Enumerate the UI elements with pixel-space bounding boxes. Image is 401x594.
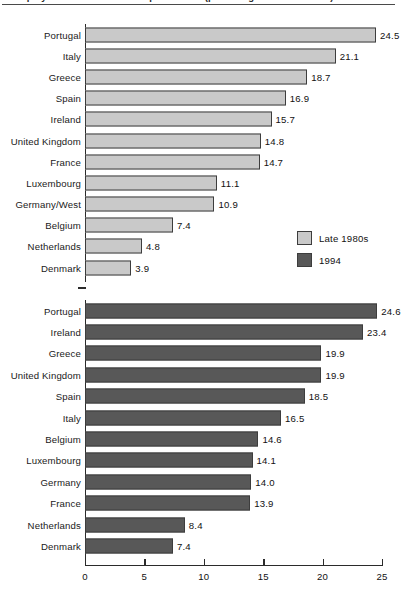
category-label: Spain: [56, 93, 81, 104]
bar: [85, 133, 261, 148]
bar: [85, 175, 217, 190]
bar: [85, 91, 286, 106]
bar-value-label: 24.6: [381, 305, 400, 316]
bar-value-label: 24.5: [380, 29, 399, 40]
category-label: Denmark: [41, 262, 81, 273]
chart-row: France14.7: [0, 151, 399, 172]
bar: [85, 69, 307, 84]
bar-value-label: 10.9: [218, 199, 237, 210]
x-axis-tick-label: 0: [82, 571, 88, 582]
bar: [85, 538, 173, 553]
chart-row: Denmark7.4: [0, 535, 399, 556]
legend-label-1994: 1994: [319, 255, 341, 266]
category-label: Netherlands: [28, 241, 81, 252]
bar-value-label: 14.0: [255, 476, 274, 487]
bar: [85, 517, 185, 532]
legend-label-late-1980s: Late 1980s: [319, 233, 368, 244]
chart-row: Italy21.1: [0, 45, 399, 66]
bar: [85, 27, 376, 42]
legend-swatch-dark-icon: [297, 253, 312, 267]
bar: [85, 154, 260, 169]
legend-item-1994: 1994: [297, 251, 395, 269]
bar-value-label: 23.4: [367, 327, 386, 338]
x-axis-tick-label: 10: [198, 571, 209, 582]
category-label: Belgium: [45, 220, 81, 231]
chart-row: Greece19.9: [0, 343, 399, 364]
chart-row: United Kingdom19.9: [0, 364, 399, 385]
category-label: Ireland: [51, 327, 81, 338]
x-axis-tick-label: 20: [317, 571, 328, 582]
bar-value-label: 11.1: [221, 177, 240, 188]
legend-swatch-light-icon: [297, 231, 312, 245]
bar: [85, 218, 173, 233]
category-label: Germany: [40, 476, 81, 487]
bar: [85, 432, 258, 447]
category-label: Spain: [56, 391, 81, 402]
x-axis-tick: [204, 559, 205, 566]
chart-row: Ireland23.4: [0, 321, 399, 342]
bar-value-label: 14.7: [264, 156, 283, 167]
chart-row: Spain18.5: [0, 386, 399, 407]
x-axis-tick: [382, 559, 383, 566]
category-label: United Kingdom: [11, 135, 81, 146]
chart-row: United Kingdom14.8: [0, 130, 399, 151]
category-label: Belgium: [45, 434, 81, 445]
bar-value-label: 16.9: [290, 93, 309, 104]
bar: [85, 260, 131, 275]
category-label: Greece: [49, 71, 81, 82]
bar: [85, 112, 272, 127]
bar-value-label: 14.6: [262, 434, 281, 445]
bar-value-label: 8.4: [189, 519, 203, 530]
x-axis-tick: [263, 559, 264, 566]
bar-value-label: 7.4: [177, 220, 191, 231]
chart-row: Italy16.5: [0, 407, 399, 428]
chart-row: France13.9: [0, 493, 399, 514]
axis-stub-tick: [78, 287, 86, 289]
chart-row: Greece18.7: [0, 66, 399, 87]
page-title: Unemployment rates in the European Union…: [0, 0, 399, 2]
bar-value-label: 15.7: [276, 114, 295, 125]
chart-row: Germany14.0: [0, 471, 399, 492]
bar: [85, 474, 251, 489]
category-label: Germany/West: [15, 199, 81, 210]
chart-row: Germany/West10.9: [0, 194, 399, 215]
x-axis-line: [85, 565, 382, 566]
category-label: Luxembourg: [26, 455, 81, 466]
bar: [85, 410, 281, 425]
bar-value-label: 21.1: [340, 50, 359, 61]
bar-value-label: 19.9: [325, 348, 344, 359]
legend-item-late-1980s: Late 1980s: [297, 229, 395, 247]
category-label: Greece: [49, 348, 81, 359]
category-label: Ireland: [51, 114, 81, 125]
bar-value-label: 19.9: [325, 369, 344, 380]
title-divider: [2, 4, 395, 5]
chart-row: Portugal24.6: [0, 300, 399, 321]
bar: [85, 197, 214, 212]
bar: [85, 325, 363, 340]
chart-row: Luxembourg11.1: [0, 172, 399, 193]
chart-row: Netherlands8.4: [0, 514, 399, 535]
category-label: France: [50, 156, 81, 167]
bar-value-label: 14.8: [265, 135, 284, 146]
chart-legend: Late 1980s 1994: [297, 229, 395, 273]
category-label: Denmark: [41, 540, 81, 551]
chart-title-clipped: Unemployment rates in the European Union…: [0, 0, 399, 3]
category-label: Portugal: [44, 305, 81, 316]
bar: [85, 48, 336, 63]
category-label: United Kingdom: [11, 369, 81, 380]
bar-value-label: 14.1: [257, 455, 276, 466]
bar: [85, 496, 250, 511]
bar: [85, 389, 305, 404]
bar-value-label: 18.5: [309, 391, 328, 402]
chart-row: Belgium14.6: [0, 428, 399, 449]
x-axis-tick: [144, 559, 145, 566]
category-label: France: [50, 498, 81, 509]
category-label: Italy: [63, 412, 81, 423]
category-label: Portugal: [44, 29, 81, 40]
chart-row: Spain16.9: [0, 88, 399, 109]
bar: [85, 367, 321, 382]
category-label: Luxembourg: [26, 177, 81, 188]
bar: [85, 239, 142, 254]
category-label: Italy: [63, 50, 81, 61]
